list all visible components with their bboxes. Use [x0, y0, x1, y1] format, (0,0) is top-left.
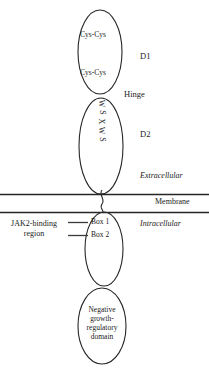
- box-1-label: Box 1: [91, 218, 109, 226]
- negative-growth-regulatory-domain-label: Negative growth- regulatory domain: [76, 306, 128, 341]
- wsxws-letter-4: W: [98, 127, 107, 135]
- wsxws-motif: W S X W S: [93, 99, 111, 144]
- d1-cys-cys-upper-label: Cys-Cys: [80, 31, 106, 39]
- extracellular-region-label: Extracellular: [140, 172, 183, 180]
- receptor-diagram: Cys-Cys Cys-Cys D1 Hinge W S X W S D2 Ex…: [0, 0, 209, 374]
- d1-cys-cys-lower-label: Cys-Cys: [80, 69, 106, 77]
- jak2-binding-region-label: JAK2-binding region: [2, 219, 66, 238]
- d2-label: D2: [140, 130, 150, 139]
- jak2-binding-region-line2: region: [2, 229, 66, 239]
- membrane-label: Membrane: [155, 198, 190, 206]
- wsxws-letter-1: W: [98, 100, 107, 108]
- hinge-label: Hinge: [124, 90, 145, 99]
- wsxws-letter-3: X: [98, 119, 107, 125]
- d1-domain-shape: [78, 10, 122, 94]
- jak2-binding-region-line1: JAK2-binding: [2, 219, 66, 229]
- wsxws-letter-2: S: [97, 110, 106, 114]
- intracellular-region-label: Intracellular: [140, 220, 181, 228]
- d1-label: D1: [140, 52, 150, 61]
- negative-domain-line4: domain: [76, 333, 128, 342]
- box-2-label: Box 2: [91, 231, 109, 239]
- wsxws-letter-5: S: [97, 137, 106, 141]
